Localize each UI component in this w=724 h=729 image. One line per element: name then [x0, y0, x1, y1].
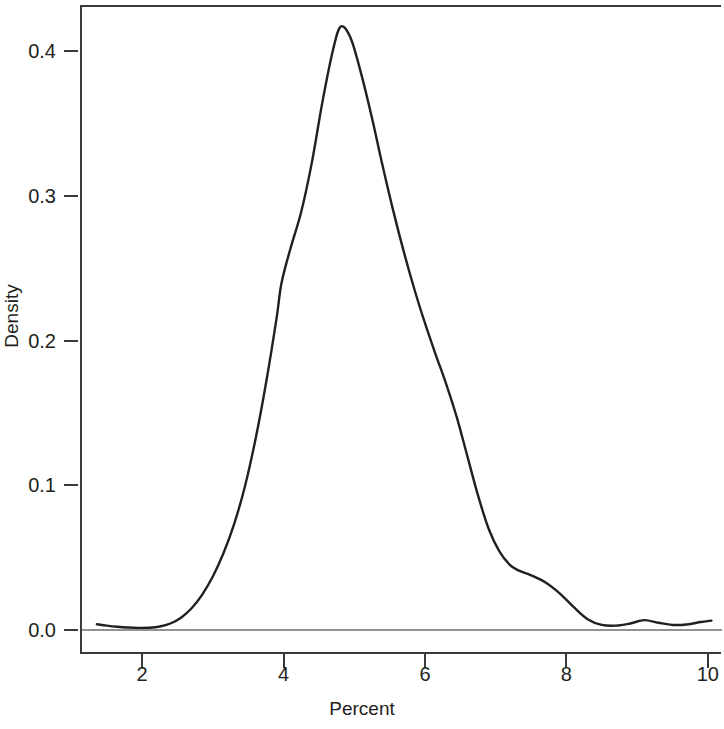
x-axis-title: Percent [0, 698, 724, 720]
density-plot-figure: 0.00.10.20.30.4 246810 Density Percent [0, 0, 724, 729]
x-tick-label: 10 [697, 663, 719, 685]
y-axis-title: Density [1, 271, 23, 361]
x-tick-label: 4 [278, 663, 289, 685]
x-tick-label: 2 [137, 663, 148, 685]
x-tick-label: 8 [561, 663, 572, 685]
x-axis: 246810 [0, 0, 724, 729]
x-tick-label: 6 [419, 663, 430, 685]
